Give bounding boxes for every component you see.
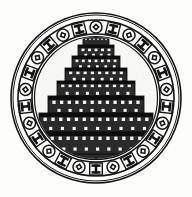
- tier-dot: [113, 109, 116, 112]
- tier-niche: [130, 118, 133, 121]
- tier-niche: [114, 118, 117, 121]
- tier-lip: [57, 81, 135, 84]
- tier-dot: [96, 127, 99, 130]
- tier-niche: [82, 137, 85, 140]
- motif-bar-stem: [95, 164, 98, 173]
- tier-dot: [101, 78, 104, 81]
- tier-niche: [107, 60, 110, 63]
- tier-niche: [91, 101, 94, 104]
- shrine-niche: [105, 39, 106, 40]
- tier-niche: [82, 49, 85, 52]
- tier-dot: [68, 109, 71, 112]
- tier-dot: [119, 147, 122, 150]
- tier-niche: [90, 137, 93, 140]
- tier-niche: [101, 60, 104, 63]
- tier-niche: [136, 101, 139, 104]
- tier-dot: [73, 78, 76, 81]
- tier-niche: [98, 101, 101, 104]
- tier-niche: [106, 137, 109, 140]
- tier-niche: [98, 118, 101, 121]
- tier-niche: [98, 85, 101, 88]
- tier-lip: [65, 68, 127, 71]
- tier-dot: [131, 127, 134, 130]
- tier-dot: [107, 147, 110, 150]
- tier-dot: [135, 109, 138, 112]
- tier-niche: [74, 137, 77, 140]
- tier-3: [65, 68, 127, 81]
- tier-niche: [114, 137, 117, 140]
- diamond-in-circle-motif: [160, 83, 173, 96]
- tier-niche: [113, 85, 116, 88]
- tier-lip: [48, 96, 144, 100]
- tier-niche: [113, 101, 116, 104]
- tier-dot: [124, 109, 127, 112]
- tier-niche: [83, 118, 86, 121]
- tier-niche: [95, 49, 98, 52]
- tier-niche: [88, 49, 91, 52]
- tier-niche: [60, 101, 63, 104]
- tier-1: [78, 45, 114, 57]
- tier-niche: [128, 85, 131, 88]
- tier-niche: [51, 118, 54, 121]
- tier-4: [57, 81, 135, 96]
- tier-dot: [49, 127, 52, 130]
- tier-dot: [79, 109, 82, 112]
- tier-niche: [98, 137, 101, 140]
- shrine-niche: [97, 39, 98, 40]
- tier-niche: [75, 118, 78, 121]
- shrine-niche: [85, 39, 86, 40]
- tier-5: [48, 96, 144, 113]
- tier-2: [72, 56, 120, 68]
- shrine-niche: [89, 39, 90, 40]
- tier-niche: [83, 101, 86, 104]
- tier-niche: [43, 118, 46, 121]
- tier-niche: [145, 118, 148, 121]
- tier-niche: [66, 137, 69, 140]
- tier-dot: [96, 147, 99, 150]
- tier-niche: [76, 85, 79, 88]
- tier-niche: [122, 118, 125, 121]
- tier-niche: [120, 85, 123, 88]
- tier-niche: [59, 118, 62, 121]
- tier-niche: [114, 60, 117, 63]
- bar-block-motif: [160, 100, 173, 114]
- tier-niche: [95, 60, 98, 63]
- tier-dot: [76, 92, 79, 95]
- tier-niche: [129, 101, 132, 104]
- tier-niche: [61, 85, 64, 88]
- tier-niche: [76, 72, 79, 75]
- tier-dot: [66, 92, 69, 95]
- tier-niche: [75, 101, 78, 104]
- tier-6: [39, 113, 153, 132]
- tier-niche: [121, 101, 124, 104]
- tier-dot: [61, 127, 64, 130]
- bar-block-motif: [105, 22, 120, 37]
- shrine-niche: [93, 39, 94, 40]
- tier-niche: [91, 85, 94, 88]
- tier-niche: [69, 72, 72, 75]
- tier-dot: [110, 78, 113, 81]
- ziggurat-medallion-artwork: Ziggurat Medallion Emblem: [0, 0, 192, 197]
- tier-dot: [102, 109, 105, 112]
- tier-dot: [82, 78, 85, 81]
- tier-niche: [82, 60, 85, 63]
- tier-dot: [126, 92, 129, 95]
- tier-niche: [105, 85, 108, 88]
- diamond-in-circle-motif: [19, 83, 32, 96]
- diamond-in-circle-motif: [90, 21, 102, 33]
- tier-niche: [68, 101, 71, 104]
- bar-block-motif: [19, 100, 32, 114]
- tier-dot: [119, 78, 122, 81]
- tier-niche: [76, 60, 79, 63]
- tier-niche: [52, 101, 55, 104]
- tier-niche: [91, 72, 94, 75]
- tier-niche: [137, 118, 140, 121]
- tier-niche: [108, 49, 111, 52]
- shrine-niche: [101, 39, 102, 40]
- tier-lip: [39, 113, 153, 117]
- tier-dot: [143, 127, 146, 130]
- tier-dot: [86, 92, 89, 95]
- tier-dot: [91, 78, 94, 81]
- tier-niche: [58, 137, 61, 140]
- tier-niche: [122, 137, 125, 140]
